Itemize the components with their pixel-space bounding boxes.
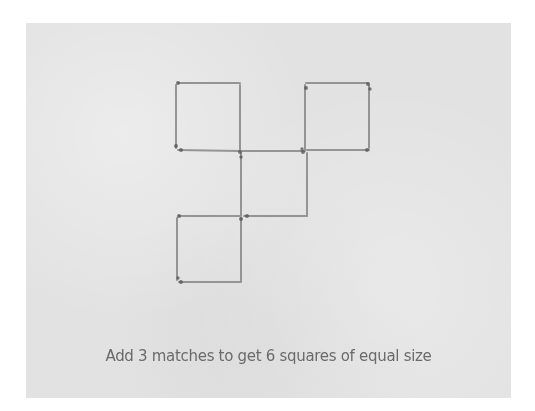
puzzle-caption: Add 3 matches to get 6 squares of equal … xyxy=(26,347,511,365)
match-tl-bottom xyxy=(178,150,240,151)
